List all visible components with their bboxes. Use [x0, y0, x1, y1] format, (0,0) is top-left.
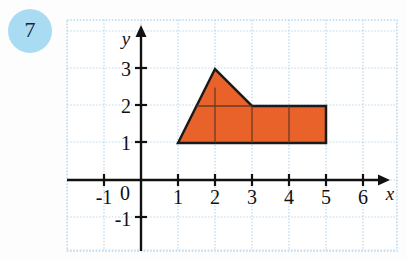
x-tick-label-5: 5	[321, 186, 331, 208]
x-tick-label-neg1: -1	[96, 186, 113, 208]
y-axis-label: y	[120, 28, 131, 49]
y-tick-label-2: 2	[121, 95, 131, 117]
x-tick-label-4: 4	[284, 186, 294, 208]
x-tick-label-6: 6	[358, 186, 368, 208]
origin-label: 0	[120, 182, 130, 204]
x-tick-label-1: 1	[173, 186, 183, 208]
x-tick-label-3: 3	[247, 186, 257, 208]
x-axis-label: x	[385, 183, 395, 204]
y-tick-label-1: 1	[121, 132, 131, 154]
y-tick-label-neg1: -1	[115, 208, 132, 230]
y-tick-label-3: 3	[121, 58, 131, 80]
coordinate-graph-svg: -1 0 1 2 3 4 5 6 3 2 1 -1 y x	[0, 0, 407, 259]
figure-root: 7	[0, 0, 407, 259]
x-tick-label-2: 2	[210, 186, 220, 208]
coordinate-graph-panel: -1 0 1 2 3 4 5 6 3 2 1 -1 y x	[0, 0, 407, 259]
